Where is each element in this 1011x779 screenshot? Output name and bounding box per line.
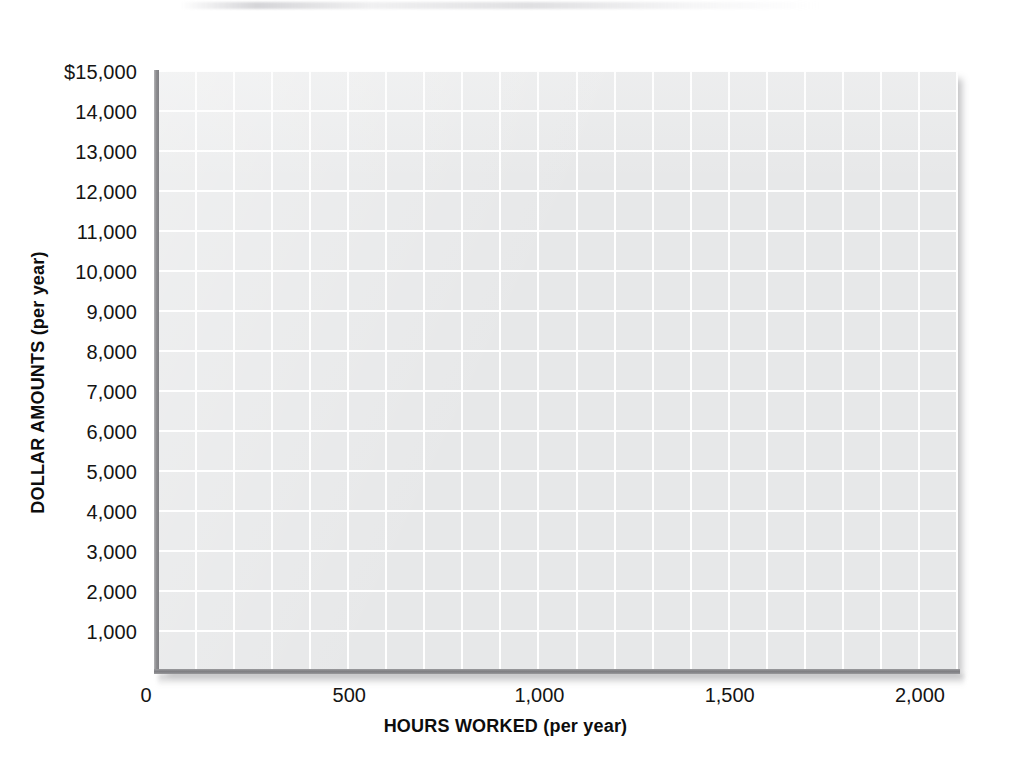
x-axis-tick-label: 500 <box>333 684 366 706</box>
y-axis-tick-label: 9,000 <box>0 302 148 322</box>
y-axis-tick-label: 4,000 <box>0 502 148 522</box>
x-axis-tick-label: 2,000 <box>895 684 945 706</box>
x-axis-tick-label: 1,500 <box>705 684 755 706</box>
y-axis-tick-labels: $15,00014,00013,00012,00011,00010,0009,0… <box>0 0 148 779</box>
x-axis-tick-label: 0 <box>140 684 151 706</box>
y-axis-tick-label: 5,000 <box>0 462 148 482</box>
x-axis-title-text: HOURS WORKED (per year) <box>384 716 628 737</box>
y-axis-tick-label: 8,000 <box>0 342 148 362</box>
x-axis-tick-labels: 05001,0001,5002,000 <box>0 684 1011 712</box>
y-axis-tick-label: 6,000 <box>0 422 148 442</box>
y-axis-tick-label: 3,000 <box>0 542 148 562</box>
y-axis-line <box>154 70 159 674</box>
y-axis-tick-label: 11,000 <box>0 222 148 242</box>
y-axis-tick-label: 7,000 <box>0 382 148 402</box>
y-axis-tick-label: $15,000 <box>0 62 148 82</box>
plot-grid-area[interactable] <box>159 72 958 672</box>
x-axis-title: HOURS WORKED (per year) <box>0 716 1011 737</box>
y-axis-tick-label: 2,000 <box>0 582 148 602</box>
y-axis-title: DOLLAR AMOUNTS (per year) <box>28 238 49 528</box>
y-axis-tick-label: 13,000 <box>0 142 148 162</box>
scan-artifact <box>180 2 820 9</box>
y-axis-tick-label: 1,000 <box>0 622 148 642</box>
x-axis-tick-label: 1,000 <box>514 684 564 706</box>
paper-texture-overlay <box>159 72 958 672</box>
y-axis-tick-label: 12,000 <box>0 182 148 202</box>
y-axis-tick-label: 10,000 <box>0 262 148 282</box>
blank-grid-chart: $15,00014,00013,00012,00011,00010,0009,0… <box>0 0 1011 779</box>
y-axis-tick-label: 14,000 <box>0 102 148 122</box>
